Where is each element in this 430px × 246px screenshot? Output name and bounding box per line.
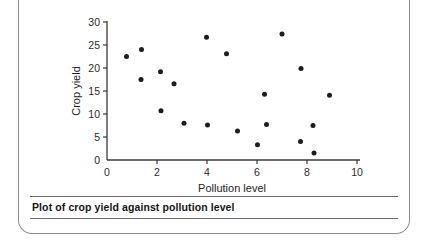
caption-block: Plot of crop yield against pollution lev… <box>30 196 398 219</box>
data-point <box>299 66 304 71</box>
data-point <box>172 81 177 86</box>
x-tick-label: 0 <box>104 166 110 178</box>
data-point <box>158 69 163 74</box>
y-tick-label: 5 <box>94 131 100 143</box>
data-point <box>139 77 144 82</box>
x-tick-label: 10 <box>351 166 363 178</box>
x-tick-label: 2 <box>154 166 160 178</box>
y-tick-label: 10 <box>88 108 100 120</box>
plot-svg: 0510152025300246810Pollution levelCrop y… <box>0 0 430 200</box>
data-point <box>262 92 267 97</box>
data-point <box>182 121 187 126</box>
screenshot-root: 0510152025300246810Pollution levelCrop y… <box>0 0 430 246</box>
data-point <box>204 35 209 40</box>
y-tick-label: 25 <box>88 39 100 51</box>
y-axis-title: Crop yield <box>70 66 82 116</box>
y-tick-label: 20 <box>88 62 100 74</box>
scatter-plot: 0510152025300246810Pollution levelCrop y… <box>0 0 430 200</box>
y-tick-label: 0 <box>94 154 100 166</box>
data-point <box>124 54 129 59</box>
x-axis-title: Pollution level <box>198 182 266 194</box>
y-tick-label: 15 <box>88 85 100 97</box>
x-tick-label: 8 <box>304 166 310 178</box>
y-tick-label: 30 <box>88 16 100 28</box>
data-point <box>235 129 240 134</box>
data-point <box>312 151 317 156</box>
x-tick-label: 6 <box>254 166 260 178</box>
data-point <box>159 108 164 113</box>
data-point <box>139 47 144 52</box>
data-point <box>264 122 269 127</box>
caption-rule-bottom <box>30 218 398 219</box>
data-point <box>255 142 260 147</box>
data-point <box>205 123 210 128</box>
data-point <box>298 139 303 144</box>
caption-text: Plot of crop yield against pollution lev… <box>30 197 398 218</box>
data-point <box>224 51 229 56</box>
data-point <box>280 31 285 36</box>
x-tick-label: 4 <box>204 166 210 178</box>
data-point <box>311 123 316 128</box>
data-point <box>327 93 332 98</box>
